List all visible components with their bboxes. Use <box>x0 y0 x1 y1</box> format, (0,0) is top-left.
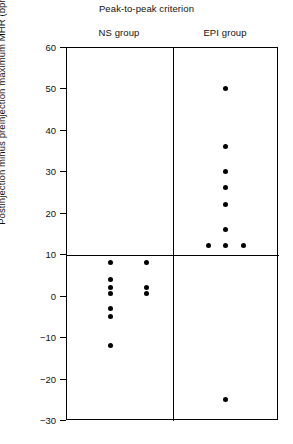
data-point <box>223 397 228 402</box>
data-point <box>108 306 113 311</box>
data-point <box>241 243 246 248</box>
y-tick-label: 0 <box>51 290 56 301</box>
y-tick-label: 60 <box>45 42 56 53</box>
y-tick-label: −30 <box>40 415 56 426</box>
data-point <box>108 285 113 290</box>
data-point <box>223 202 228 207</box>
data-point <box>223 185 228 190</box>
data-points-layer <box>66 47 278 420</box>
data-point <box>108 343 113 348</box>
data-point <box>144 260 149 265</box>
y-tick <box>60 420 66 421</box>
data-point <box>223 144 228 149</box>
data-point <box>108 260 113 265</box>
group-label-epi: EPI group <box>172 27 278 38</box>
data-point <box>108 291 113 296</box>
data-point <box>223 86 228 91</box>
y-tick-label: 30 <box>45 166 56 177</box>
data-point <box>223 243 228 248</box>
y-tick-label: −10 <box>40 332 56 343</box>
data-point <box>144 291 149 296</box>
data-point <box>144 285 149 290</box>
y-tick-label: 10 <box>45 249 56 260</box>
chart-title: Peak-to-peak criterion <box>0 3 293 14</box>
group-label-ns: NS group <box>66 27 172 38</box>
data-point <box>108 277 113 282</box>
y-tick-label: −20 <box>40 373 56 384</box>
data-point <box>223 227 228 232</box>
chart-figure: Peak-to-peak criterion NS group EPI grou… <box>0 0 293 444</box>
data-point <box>108 314 113 319</box>
y-tick-label: 50 <box>45 83 56 94</box>
data-point <box>223 169 228 174</box>
y-tick-label: 20 <box>45 207 56 218</box>
y-axis-title: Postinjection minus preinjection maximum… <box>0 0 7 233</box>
data-point <box>206 243 211 248</box>
y-tick-label: 40 <box>45 124 56 135</box>
